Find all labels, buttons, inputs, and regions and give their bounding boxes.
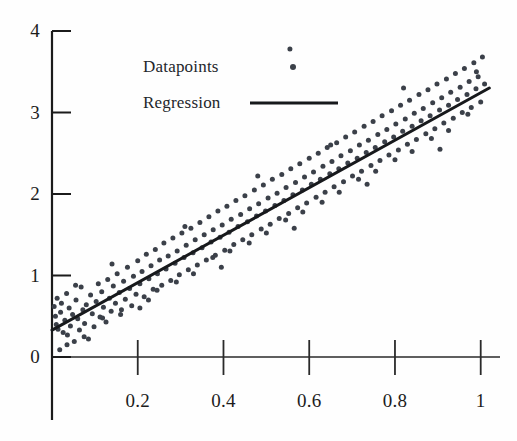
data-point bbox=[277, 216, 282, 221]
y-axis-tick-label: 0 bbox=[10, 346, 40, 368]
data-point bbox=[121, 279, 126, 284]
data-point bbox=[357, 143, 362, 148]
data-point bbox=[159, 283, 164, 288]
data-point bbox=[59, 301, 64, 306]
data-point bbox=[337, 190, 342, 195]
data-point bbox=[177, 272, 182, 277]
data-point bbox=[464, 92, 469, 97]
data-point bbox=[238, 212, 243, 217]
data-point bbox=[186, 267, 191, 272]
data-point bbox=[401, 86, 406, 91]
data-point bbox=[441, 121, 446, 126]
data-point bbox=[247, 240, 252, 245]
data-point bbox=[104, 319, 109, 324]
data-point bbox=[101, 305, 106, 310]
data-point bbox=[119, 307, 124, 312]
y-axis-tick-label: 2 bbox=[10, 183, 40, 205]
data-point bbox=[58, 310, 63, 315]
data-point bbox=[134, 292, 139, 297]
legend-item-regression: Regression bbox=[143, 93, 221, 113]
data-point bbox=[421, 106, 426, 111]
data-point bbox=[389, 108, 394, 113]
data-point bbox=[115, 271, 120, 276]
data-point bbox=[255, 174, 260, 179]
data-point bbox=[170, 236, 175, 241]
data-point bbox=[65, 333, 70, 338]
data-point bbox=[405, 142, 410, 147]
data-point bbox=[211, 227, 216, 232]
legend-item-datapoints: Datapoints bbox=[143, 57, 219, 77]
data-point bbox=[398, 103, 403, 108]
data-point bbox=[338, 153, 343, 158]
data-point bbox=[261, 183, 266, 188]
data-point bbox=[168, 278, 173, 283]
data-point bbox=[73, 283, 78, 288]
x-axis-tick-label: 1 bbox=[476, 390, 486, 412]
data-point bbox=[288, 166, 293, 171]
data-point bbox=[302, 174, 307, 179]
data-point bbox=[146, 297, 151, 302]
data-point bbox=[384, 127, 389, 132]
data-point bbox=[437, 147, 442, 152]
data-point bbox=[191, 271, 196, 276]
data-point bbox=[229, 217, 234, 222]
data-point bbox=[270, 177, 275, 182]
data-point bbox=[174, 280, 179, 285]
x-axis-tick-label: 0.8 bbox=[383, 390, 408, 412]
data-point bbox=[365, 182, 370, 187]
data-point bbox=[123, 297, 128, 302]
data-point bbox=[287, 46, 292, 51]
data-point bbox=[423, 131, 428, 136]
data-point bbox=[259, 227, 264, 232]
data-point bbox=[295, 205, 300, 210]
data-point bbox=[478, 99, 483, 104]
data-point bbox=[129, 303, 134, 308]
data-point bbox=[67, 306, 72, 311]
data-point bbox=[77, 328, 82, 333]
data-point bbox=[252, 187, 257, 192]
data-point bbox=[195, 262, 200, 267]
data-point bbox=[64, 291, 69, 296]
data-point bbox=[403, 117, 408, 122]
data-point bbox=[109, 309, 114, 314]
data-point bbox=[314, 195, 319, 200]
data-point bbox=[215, 209, 220, 214]
data-point bbox=[320, 200, 325, 205]
legend-marker-dot-icon bbox=[290, 64, 296, 70]
data-point bbox=[188, 226, 193, 231]
y-axis-tick-label: 3 bbox=[10, 102, 40, 124]
y-axis-tick-label: 1 bbox=[10, 265, 40, 287]
data-point bbox=[434, 81, 439, 86]
datapoints-series bbox=[52, 46, 487, 352]
data-point bbox=[197, 220, 202, 225]
data-point bbox=[61, 330, 66, 335]
data-point bbox=[352, 130, 357, 135]
data-point bbox=[68, 324, 73, 329]
data-point bbox=[377, 158, 382, 163]
data-point bbox=[219, 265, 224, 270]
data-point bbox=[311, 170, 316, 175]
data-point bbox=[480, 55, 485, 60]
data-point bbox=[429, 136, 434, 141]
x-axis-tick-label: 0.2 bbox=[125, 390, 150, 412]
data-point bbox=[469, 105, 474, 110]
data-point bbox=[74, 297, 79, 302]
data-point bbox=[437, 108, 442, 113]
data-point bbox=[416, 92, 421, 97]
data-point bbox=[82, 321, 87, 326]
data-point bbox=[371, 119, 376, 124]
data-point bbox=[329, 159, 334, 164]
data-point bbox=[467, 79, 472, 84]
data-point bbox=[182, 224, 187, 229]
data-point bbox=[474, 69, 479, 74]
data-point bbox=[142, 294, 147, 299]
data-point bbox=[396, 147, 401, 152]
data-point bbox=[400, 129, 405, 134]
data-point bbox=[88, 293, 93, 298]
plot-canvas bbox=[0, 0, 517, 441]
data-point bbox=[453, 71, 458, 76]
data-point bbox=[105, 277, 110, 282]
regression-line-series bbox=[52, 88, 489, 330]
data-point bbox=[334, 140, 339, 145]
data-point bbox=[84, 302, 89, 307]
